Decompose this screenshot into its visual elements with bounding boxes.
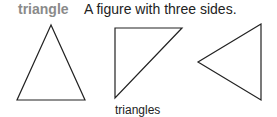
- figure-caption: triangles: [115, 103, 160, 117]
- triangle-icon-1: [17, 25, 85, 100]
- triangle-icon-3: [198, 24, 261, 100]
- triangles-illustration: [0, 0, 277, 117]
- triangle-icon-2: [115, 28, 182, 98]
